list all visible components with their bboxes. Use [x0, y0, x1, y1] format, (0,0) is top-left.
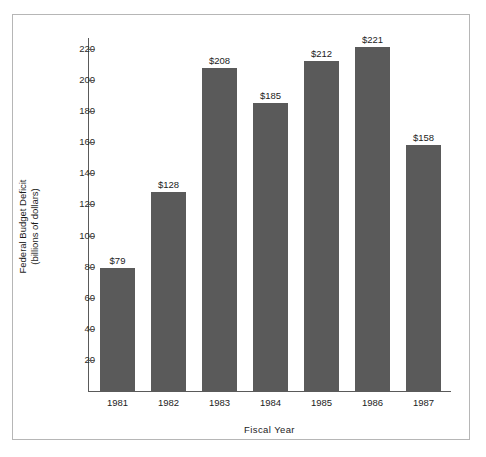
y-tick-mark — [89, 329, 95, 330]
y-axis-title-line1: Federal Budget Deficit — [17, 137, 29, 317]
bar-1986 — [355, 47, 390, 391]
x-axis-line — [88, 391, 451, 392]
bar-1984 — [253, 103, 288, 391]
bar-1983 — [202, 68, 237, 391]
bar-value-label-1983: $208 — [194, 55, 245, 66]
y-tick-60: 60 — [48, 293, 95, 303]
bar-value-label-1985: $212 — [296, 48, 347, 59]
y-axis-line — [88, 38, 89, 392]
bar-1982 — [151, 192, 186, 391]
x-tick-label-1986: 1986 — [347, 397, 398, 409]
y-tick-180: 180 — [48, 106, 95, 116]
x-tick-label-1984: 1984 — [245, 397, 296, 409]
bar-value-label-1984: $185 — [245, 90, 296, 101]
y-tick-100: 100 — [48, 231, 95, 241]
y-tick-mark — [89, 142, 95, 143]
y-axis-title: Federal Budget Deficit (billions of doll… — [17, 137, 40, 317]
y-tick-mark — [89, 298, 95, 299]
y-tick-160: 160 — [48, 137, 95, 147]
y-tick-mark — [89, 204, 95, 205]
y-tick-220: 220 — [48, 44, 95, 54]
chart-figure: 20406080100120140160180200220 $79$128$20… — [0, 0, 486, 457]
bar-value-label-1981: $79 — [92, 255, 143, 266]
bar-value-label-1986: $221 — [347, 34, 398, 45]
plot-area: 20406080100120140160180200220 $79$128$20… — [0, 0, 486, 457]
y-tick-mark — [89, 236, 95, 237]
y-axis-title-line2: (billions of dollars) — [28, 137, 40, 317]
bar-value-label-1987: $158 — [398, 132, 449, 143]
y-tick-mark — [89, 80, 95, 81]
bar-1985 — [304, 61, 339, 391]
y-tick-mark — [89, 49, 95, 50]
y-tick-140: 140 — [48, 168, 95, 178]
y-tick-200: 200 — [48, 75, 95, 85]
x-tick-label-1985: 1985 — [296, 397, 347, 409]
y-tick-mark — [89, 267, 95, 268]
bar-1981 — [100, 268, 135, 391]
x-tick-label-1987: 1987 — [398, 397, 449, 409]
y-tick-120: 120 — [48, 199, 95, 209]
x-axis-title: Fiscal Year — [88, 424, 451, 435]
y-tick-40: 40 — [48, 324, 95, 334]
x-tick-label-1982: 1982 — [143, 397, 194, 409]
y-tick-mark — [89, 173, 95, 174]
bar-1987 — [406, 145, 441, 391]
y-tick-mark — [89, 111, 95, 112]
bar-value-label-1982: $128 — [143, 179, 194, 190]
x-tick-label-1983: 1983 — [194, 397, 245, 409]
x-tick-label-1981: 1981 — [92, 397, 143, 409]
y-tick-80: 80 — [48, 262, 95, 272]
y-tick-20: 20 — [48, 355, 95, 365]
y-tick-mark — [89, 360, 95, 361]
